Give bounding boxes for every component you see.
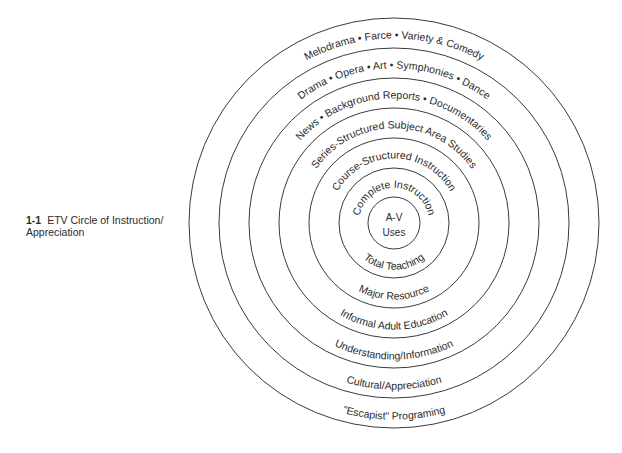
band-3-bottom-text: Informal Adult Education	[339, 306, 450, 332]
ring-1	[368, 197, 420, 249]
band-2-bottom-label: Major Resource	[357, 282, 430, 302]
band-4-bottom-text: Understanding/Information	[333, 337, 454, 362]
band-5-bottom-label: Cultural/Appreciation	[345, 373, 442, 392]
core-label-line-2: Uses	[383, 227, 406, 238]
band-6-bottom-text: "Escapist" Programing	[342, 403, 446, 422]
band-6-top-label: Melodrama • Farce • Variety & Comedy	[302, 28, 487, 62]
ring-7	[189, 18, 599, 428]
concentric-rings	[189, 18, 599, 428]
core-label-line-1: A-V	[386, 212, 403, 223]
band-2-bottom-text: Major Resource	[357, 282, 430, 302]
ring-3	[309, 138, 479, 308]
core-circle-label: A-V Uses	[383, 212, 406, 238]
band-1-bottom-text: Total Teaching	[362, 250, 426, 272]
band-labels: Complete InstructionTotal TeachingCourse…	[293, 28, 495, 421]
ring-6	[219, 48, 569, 398]
band-5-bottom-text: Cultural/Appreciation	[345, 373, 442, 392]
band-4-bottom-label: Understanding/Information	[333, 337, 454, 362]
band-1-bottom-label: Total Teaching	[362, 250, 426, 272]
etv-circle-diagram: Complete InstructionTotal TeachingCourse…	[0, 0, 622, 453]
band-3-bottom-label: Informal Adult Education	[339, 306, 450, 332]
ring-4	[279, 108, 509, 338]
band-6-bottom-label: "Escapist" Programing	[342, 403, 446, 422]
band-6-top-text: Melodrama • Farce • Variety & Comedy	[302, 28, 487, 62]
